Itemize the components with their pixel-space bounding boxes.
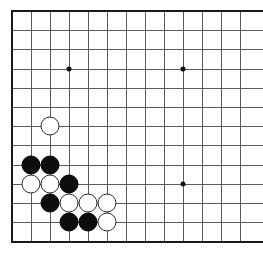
black-stone-c3-r11[interactable]: [41, 194, 60, 213]
white-stone-c6-r11[interactable]: [98, 194, 117, 213]
white-stone-c3-r10[interactable]: [41, 174, 60, 193]
stones-layer[interactable]: [0, 0, 263, 271]
white-stone-c4-r11[interactable]: [60, 194, 79, 213]
white-stone-c2-r10[interactable]: [22, 174, 41, 193]
go-board-diagram: [0, 0, 263, 271]
black-stone-c2-r9[interactable]: [22, 155, 41, 174]
black-stone-c4-r12[interactable]: [60, 213, 79, 232]
white-stone-c5-r11[interactable]: [79, 194, 98, 213]
goban[interactable]: [0, 0, 263, 271]
white-stone-c6-r12[interactable]: [98, 213, 117, 232]
black-stone-c5-r12[interactable]: [79, 213, 98, 232]
white-stone-c3-r7[interactable]: [41, 117, 60, 136]
black-stone-c3-r9[interactable]: [41, 155, 60, 174]
black-stone-c4-r10[interactable]: [60, 174, 79, 193]
